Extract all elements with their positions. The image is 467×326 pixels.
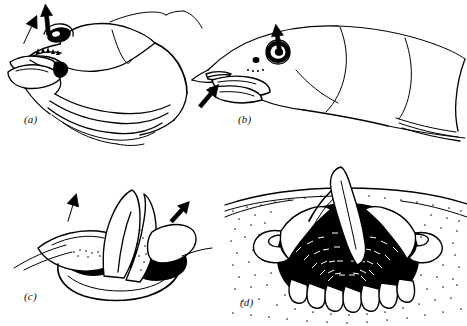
arrow-up-head <box>39 3 54 35</box>
panel-b-label: (b) <box>238 113 251 125</box>
arrow-up-eye <box>270 23 286 55</box>
arrow-up-right-jaw <box>195 81 223 111</box>
panel-b-arrows <box>190 0 467 150</box>
panel-d: (d) <box>225 155 467 326</box>
panel-c: (c) <box>0 160 234 326</box>
arrow-up-right-opercular <box>167 198 194 226</box>
figure-root: (a) <box>0 0 467 326</box>
panel-a-label: (a) <box>24 113 37 125</box>
arrow-down-left-opercular <box>62 192 82 223</box>
arrow-down-left-snout <box>18 13 42 46</box>
panel-d-drawing <box>225 155 467 326</box>
panel-d-label: (d) <box>240 296 253 308</box>
panel-b: (b) <box>190 0 467 150</box>
panel-c-label: (c) <box>24 290 37 302</box>
